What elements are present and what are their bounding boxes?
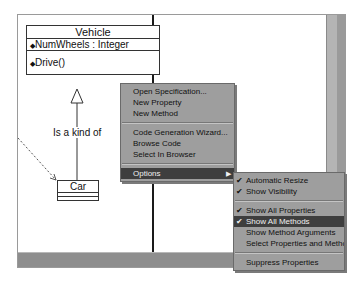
menu-item-label: Show All Methods <box>246 217 310 226</box>
menu-item-label: Options <box>133 169 161 178</box>
menu-item-select-in-browser[interactable]: Select In Browser <box>121 149 234 160</box>
class-car[interactable]: Car <box>57 180 99 201</box>
menu-item-show-method-arguments[interactable]: Show Method Arguments <box>234 227 344 238</box>
menu-separator <box>235 252 343 254</box>
menu-item-new-property[interactable]: New Property <box>121 97 234 108</box>
menu-item-select-properties-and-methods[interactable]: Select Properties and Methods... <box>234 238 344 249</box>
menu-item-label: Select Properties and Methods... <box>246 239 344 248</box>
options-submenu: ✔Automatic Resize ✔Show Visibility ✔Show… <box>233 172 345 271</box>
operations-compartment <box>58 197 98 200</box>
check-icon: ✔ <box>236 216 243 227</box>
menu-separator <box>235 200 343 202</box>
menu-item-label: Show Visibility <box>246 187 297 196</box>
menu-item-options[interactable]: Options▶ <box>121 168 234 179</box>
class-name: Car <box>58 181 98 193</box>
menu-item-open-specification[interactable]: Open Specification... <box>121 86 234 97</box>
menu-item-suppress-properties[interactable]: Suppress Properties <box>234 257 344 268</box>
menu-item-new-method[interactable]: New Method <box>121 108 234 119</box>
menu-item-label: Show All Properties <box>246 206 315 215</box>
menu-item-code-generation-wizard[interactable]: Code Generation Wizard... <box>121 127 234 138</box>
menu-item-label: New Method <box>133 109 178 118</box>
relationship-label: Is a kind of <box>53 127 101 138</box>
menu-item-label: Code Generation Wizard... <box>133 128 228 137</box>
menu-separator <box>122 163 233 165</box>
context-menu: Open Specification... New Property New M… <box>120 83 235 182</box>
menu-item-label: New Property <box>133 98 181 107</box>
menu-item-label: Browse Code <box>133 139 181 148</box>
menu-item-label: Show Method Arguments <box>246 228 335 237</box>
check-icon: ✔ <box>236 205 243 216</box>
menu-item-label: Suppress Properties <box>246 258 318 267</box>
menu-item-label: Select In Browser <box>133 150 196 159</box>
menu-item-browse-code[interactable]: Browse Code <box>121 138 234 149</box>
menu-item-show-visibility[interactable]: ✔Show Visibility <box>234 186 344 197</box>
menu-separator <box>122 122 233 124</box>
menu-item-label: Open Specification... <box>133 87 207 96</box>
menu-item-show-all-properties[interactable]: ✔Show All Properties <box>234 205 344 216</box>
check-icon: ✔ <box>236 186 243 197</box>
submenu-arrow-icon: ▶ <box>226 168 231 179</box>
check-icon: ✔ <box>236 175 243 186</box>
menu-item-automatic-resize[interactable]: ✔Automatic Resize <box>234 175 344 186</box>
menu-item-show-all-methods[interactable]: ✔Show All Methods <box>234 216 344 227</box>
menu-item-label: Automatic Resize <box>246 176 308 185</box>
